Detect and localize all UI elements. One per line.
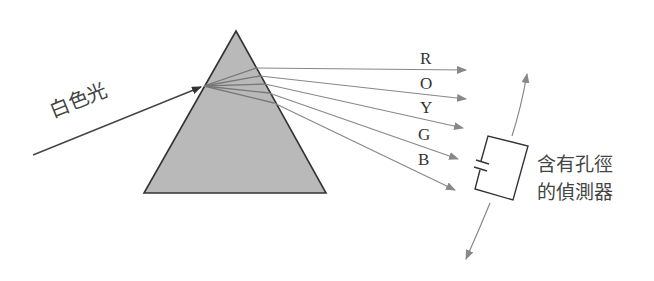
ray-y [265,84,463,128]
ray-r [256,68,466,70]
detector [474,136,528,200]
ray-label-g: G [418,126,430,143]
prism [144,31,326,193]
detector-arc-down [466,203,490,259]
ray-o [260,76,466,99]
detector-label-line2: 的偵測器 [537,180,613,204]
detector-label-line1: 含有孔徑 [537,152,613,176]
ray-label-y: Y [420,99,432,116]
prism-diagram [0,0,654,281]
ray-label-r: R [420,50,431,67]
detector-arc-up [512,74,527,136]
ray-label-o: O [420,75,432,92]
ray-label-b: B [418,151,429,168]
